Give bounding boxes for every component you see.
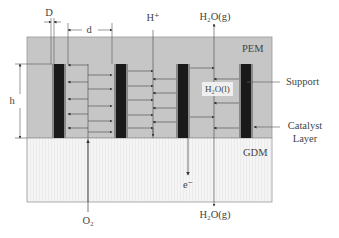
label-gdm: GDM [243,148,268,159]
label-D: D [45,8,53,19]
label-h-plus: H⁺ [146,13,159,24]
electrode-4 [239,64,253,138]
diagram-canvas [0,0,339,238]
label-electron: e⁻ [183,180,193,191]
label-support: Support [286,77,319,88]
electrode-2 [114,64,128,138]
label-h2o-gas-bottom: H₂O(g) [199,210,230,221]
label-layer: Layer [293,134,317,145]
label-h2o-liquid: H₂O(l) [202,82,233,96]
label-catalyst: Catalyst [288,121,322,132]
label-h: h [9,96,14,107]
label-pem: PEM [242,44,264,55]
label-o2: O₂ [82,216,93,227]
gdm-region [27,138,272,202]
label-h2o-gas-top: H₂O(g) [199,12,230,23]
electrode-1 [52,64,66,138]
label-d: d [86,25,91,36]
electrode-3 [176,64,190,138]
